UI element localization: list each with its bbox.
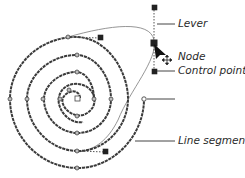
lever-top-left [68, 37, 100, 38]
spiral-path-diagram [0, 0, 245, 178]
label-line-segment: Line segment [178, 135, 245, 146]
node[interactable] [25, 97, 29, 101]
node[interactable] [75, 114, 79, 118]
node[interactable] [75, 149, 79, 153]
node[interactable] [67, 88, 71, 92]
control-point-lever-bottom[interactable] [152, 69, 157, 74]
node[interactable] [75, 131, 79, 135]
start-node[interactable] [75, 96, 80, 101]
label-lever: Lever [178, 18, 207, 29]
node[interactable] [66, 35, 70, 39]
node[interactable] [75, 70, 79, 74]
pointer-arrow-icon [154, 44, 166, 59]
label-node: Node [178, 51, 205, 62]
node[interactable] [75, 53, 79, 57]
selected-node[interactable] [151, 40, 157, 46]
node[interactable] [109, 97, 113, 101]
node[interactable] [92, 97, 96, 101]
lever-bottom [78, 151, 105, 152]
control-point-top-left[interactable] [98, 35, 103, 40]
move-cursor-icon [162, 55, 172, 65]
node[interactable] [41, 97, 45, 101]
label-control-point: Control point [178, 65, 245, 76]
control-point-bottom[interactable] [103, 149, 108, 154]
control-point-lever-top[interactable] [152, 5, 157, 10]
end-node[interactable] [142, 97, 146, 101]
node[interactable] [75, 166, 79, 170]
node[interactable] [58, 97, 62, 101]
node[interactable] [8, 97, 12, 101]
guide-curve [68, 26, 154, 152]
